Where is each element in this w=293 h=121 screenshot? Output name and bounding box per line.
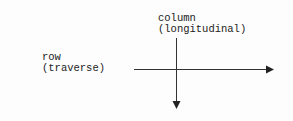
arrow-down-icon xyxy=(173,101,181,109)
horizontal-axis xyxy=(134,66,274,74)
arrow-right-icon xyxy=(266,66,274,74)
vertical-axis xyxy=(173,38,181,109)
axes-diagram xyxy=(0,0,293,121)
